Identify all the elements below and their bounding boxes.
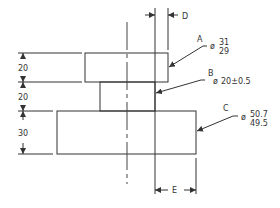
label-c-lower: 49.5	[250, 119, 268, 128]
label-c-symbol: ø	[241, 113, 246, 122]
label-c-upper: 50.7	[250, 110, 268, 119]
dim-text-bottom: 30	[18, 129, 28, 138]
dim-text-top: 20	[18, 64, 28, 73]
dim-text-mid: 20	[18, 93, 28, 102]
label-a-lower: 29	[219, 47, 229, 56]
label-a-symbol: ø	[210, 42, 215, 51]
leader-c	[197, 116, 238, 131]
label-a-upper: 31	[219, 38, 229, 47]
label-b-value: 20±0.5	[221, 77, 251, 86]
label-d: D	[182, 12, 188, 21]
label-e: E	[172, 186, 177, 195]
leader-a	[169, 46, 207, 67]
label-a: A	[197, 35, 203, 44]
technical-drawing: D E 20 20 30 A ø 31 29 B ø 20±0.5 C ø 50…	[0, 0, 280, 208]
label-c: C	[223, 104, 229, 113]
label-b-symbol: ø	[213, 77, 218, 86]
